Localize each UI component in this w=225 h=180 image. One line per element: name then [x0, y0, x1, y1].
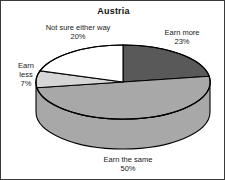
slice-label-earn-less-line2: less [9, 70, 43, 79]
pie-chart-figure: Austria Not sure either way 20% Earn mor… [0, 0, 225, 180]
pie-slice-earn-more [123, 45, 209, 82]
slice-label-earn-more: Earn more 23% [151, 28, 213, 46]
slice-label-earn-more-pct: 23% [151, 37, 213, 46]
slice-label-earn-less-pct: 7% [9, 79, 43, 88]
slice-label-earn-less-line1: Earn [9, 61, 43, 70]
slice-label-not-sure-name: Not sure either way [46, 23, 111, 32]
slice-label-earn-less: Earn less 7% [9, 61, 43, 88]
slice-label-not-sure-pct: 20% [35, 32, 121, 41]
slice-label-not-sure: Not sure either way 20% [35, 23, 121, 41]
slice-label-earn-more-name: Earn more [164, 28, 199, 37]
slice-label-earn-the-same-pct: 50% [73, 164, 183, 173]
slice-label-earn-the-same-name: Earn the same [104, 155, 153, 164]
slice-label-earn-the-same: Earn the same 50% [73, 155, 183, 173]
